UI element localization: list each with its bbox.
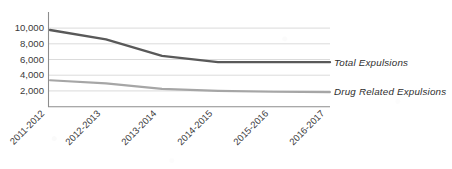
x-tick-label: 2016-2017 [287, 108, 326, 147]
y-tick-label: 10,000 [15, 22, 44, 33]
y-tick-label: 2,000 [20, 85, 44, 96]
y-tick-label: 8,000 [20, 38, 44, 49]
x-tick-label: 2013-2014 [119, 108, 158, 147]
x-tick-label: 2012-2013 [63, 108, 102, 147]
line-chart: 10,000 8,000 6,000 4,000 2,000 2011-2012… [0, 0, 452, 169]
x-axis-tick-labels: 2011-2012 2012-2013 2013-2014 2014-2015 … [7, 108, 326, 147]
series-line-drug-related-expulsions [50, 80, 330, 92]
x-tick-label: 2015-2016 [231, 108, 270, 147]
legend-label-drug-related-expulsions: Drug Related Expulsions [334, 86, 446, 97]
y-axis-tick-labels: 10,000 8,000 6,000 4,000 2,000 [15, 22, 44, 96]
y-tick-label: 4,000 [20, 69, 44, 80]
x-tick-label: 2011-2012 [7, 108, 46, 147]
x-tick-label: 2014-2015 [175, 108, 214, 147]
legend-label-total-expulsions: Total Expulsions [334, 57, 408, 68]
series-line-total-expulsions [50, 30, 330, 62]
chart-plot-area: 10,000 8,000 6,000 4,000 2,000 2011-2012… [0, 0, 452, 169]
y-tick-label: 6,000 [20, 54, 44, 65]
